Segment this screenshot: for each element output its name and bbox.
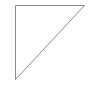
- triangle-figure: [0, 0, 93, 85]
- diagram-canvas: [0, 0, 93, 85]
- right-triangle-shape: [16, 6, 85, 80]
